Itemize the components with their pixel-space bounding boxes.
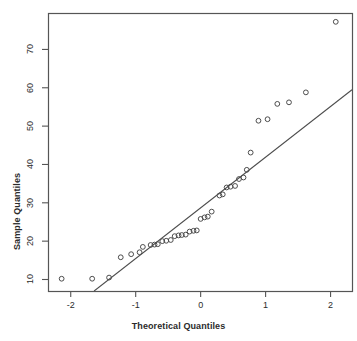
y-tick-label: 30: [23, 191, 37, 215]
data-point: [241, 175, 246, 180]
data-point: [275, 101, 280, 106]
data-point: [59, 276, 64, 281]
data-point: [209, 209, 214, 214]
data-point: [168, 238, 173, 243]
reference-line-group: [94, 90, 352, 291]
data-point: [194, 228, 199, 233]
data-point-group: [59, 19, 338, 281]
x-tick-label: 0: [186, 300, 216, 310]
data-point: [303, 90, 308, 95]
data-point: [256, 118, 261, 123]
x-tick-label: 1: [251, 300, 281, 310]
y-tick-label: 60: [23, 76, 37, 100]
data-point: [248, 150, 253, 155]
data-point: [333, 19, 338, 24]
y-tick-label: 20: [23, 229, 37, 253]
data-point: [265, 117, 270, 122]
data-point: [137, 250, 142, 255]
y-tick-label: 70: [23, 37, 37, 61]
y-axis-title: Sample Quantiles: [12, 50, 22, 250]
data-point: [118, 255, 123, 260]
plot-canvas: [0, 0, 357, 341]
qq-reference-line: [94, 90, 352, 291]
y-tick-label: 10: [23, 267, 37, 291]
x-axis-title: Theoretical Quantiles: [0, 321, 357, 331]
qq-plot-figure: Theoretical Quantiles Sample Quantiles -…: [0, 0, 357, 341]
data-point: [287, 100, 292, 105]
data-point: [90, 276, 95, 281]
data-point: [233, 184, 238, 189]
plot-frame: [49, 14, 353, 292]
data-point: [129, 252, 134, 257]
y-tick-label: 40: [23, 152, 37, 176]
x-tick-label: -1: [121, 300, 151, 310]
data-point: [205, 214, 210, 219]
x-tick-label: -2: [56, 300, 86, 310]
y-tick-label: 50: [23, 114, 37, 138]
x-tick-label: 2: [316, 300, 346, 310]
data-point: [140, 245, 145, 250]
data-point: [155, 242, 160, 247]
